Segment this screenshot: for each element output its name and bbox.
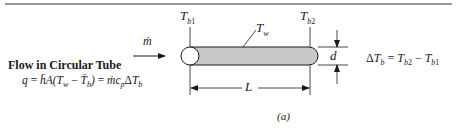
tube-body bbox=[190, 47, 318, 65]
Tb1-idx: 1 bbox=[191, 17, 195, 26]
dr-sub: b bbox=[380, 58, 384, 67]
dr-delta: Δ bbox=[366, 51, 374, 65]
tw-leader-line bbox=[243, 30, 256, 47]
length-label: L bbox=[245, 79, 252, 95]
delta-T-relation: ΔTb = Tb2 − Tb1 bbox=[366, 51, 439, 67]
tube-inlet-circle bbox=[181, 47, 199, 65]
diameter-label: d bbox=[330, 48, 337, 64]
Tb2-label: Tb2 bbox=[300, 8, 315, 26]
dr-eq: = bbox=[387, 51, 394, 65]
Tw-sub: w bbox=[263, 29, 268, 38]
dr-minus: − bbox=[415, 51, 422, 65]
figure-caption: (a) bbox=[277, 110, 290, 122]
Tw-label: Tw bbox=[256, 20, 269, 38]
Tb1-label: Tb1 bbox=[180, 8, 195, 26]
mass-flow-label: ṁ bbox=[143, 34, 152, 49]
Tb2-idx: 2 bbox=[311, 17, 315, 26]
dr-Tb2-idx: 2 bbox=[408, 58, 412, 67]
dr-Tb2: T bbox=[397, 51, 404, 65]
dr-Tb1-idx: 1 bbox=[435, 58, 439, 67]
